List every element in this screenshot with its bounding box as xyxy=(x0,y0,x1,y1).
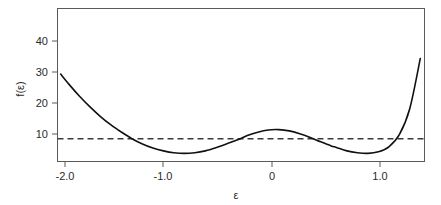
data-curve-f-epsilon xyxy=(61,58,421,153)
y-tick-label-20: 20 xyxy=(36,97,48,109)
chart-figure: 10 20 30 40 f(ε) -2.0 -1.0 0 1.0 ε xyxy=(0,0,441,205)
x-axis-tick-labels: -2.0 -1.0 0 1.0 xyxy=(56,170,388,182)
x-tick-label-0: 0 xyxy=(269,170,275,182)
x-axis-ticks xyxy=(65,162,380,168)
y-axis-tick-labels: 10 20 30 40 xyxy=(36,35,48,140)
y-axis-ticks xyxy=(52,41,58,134)
y-tick-label-10: 10 xyxy=(36,128,48,140)
x-tick-label-neg1: -1.0 xyxy=(154,170,173,182)
x-tick-label-1: 1.0 xyxy=(372,170,387,182)
y-axis-title: f(ε) xyxy=(14,81,26,96)
y-tick-label-30: 30 xyxy=(36,66,48,78)
x-axis-title: ε xyxy=(234,189,239,201)
plot-canvas: 10 20 30 40 f(ε) -2.0 -1.0 0 1.0 ε xyxy=(0,0,441,205)
x-tick-label-neg2: -2.0 xyxy=(56,170,75,182)
y-tick-label-40: 40 xyxy=(36,35,48,47)
